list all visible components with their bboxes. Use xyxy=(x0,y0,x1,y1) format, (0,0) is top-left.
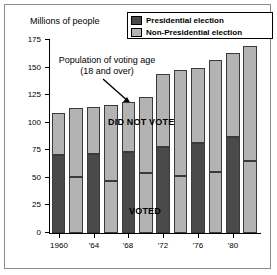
x-tick-1976 xyxy=(198,234,199,238)
x-tick-1968 xyxy=(128,234,129,238)
bar-segment-did-not-vote-1978 xyxy=(209,60,223,172)
bar-segment-did-not-vote-1970 xyxy=(139,97,153,173)
chart-frame: Millions of people Presidential election… xyxy=(4,4,271,269)
bar-segment-did-not-vote-1962 xyxy=(69,108,83,176)
bar-segment-voted-1978 xyxy=(209,172,223,233)
bar-segment-did-not-vote-1972 xyxy=(156,74,170,147)
bar-segment-voted-1962 xyxy=(69,177,83,233)
bar-segment-voted-1964 xyxy=(87,154,101,233)
legend-swatch-presidential xyxy=(131,16,142,25)
legend-item-non-presidential: Non-Presidential election xyxy=(131,27,269,38)
y-tick-label-0: 0 xyxy=(13,228,41,237)
bar-segment-voted-1970 xyxy=(139,173,153,233)
x-axis-line xyxy=(49,233,261,234)
y-tick-label-50: 50 xyxy=(13,173,41,182)
chart-legend: Presidential election Non-Presidential e… xyxy=(127,12,273,39)
bar-segment-did-not-vote-1976 xyxy=(191,68,205,143)
bar-segment-did-not-vote-1964 xyxy=(87,107,101,153)
bar-1976 xyxy=(191,68,205,233)
y-tick-label-175: 175 xyxy=(13,35,41,44)
bar-segment-did-not-vote-1982 xyxy=(243,46,257,162)
did-not-vote-label: DID NOT VOTE xyxy=(108,117,174,127)
y-axis-title: Millions of people xyxy=(30,16,100,26)
bar-segment-voted-1960 xyxy=(52,155,66,233)
x-tick-label-1964: '64 xyxy=(89,241,99,250)
bar-segment-did-not-vote-1974 xyxy=(174,70,188,176)
bar-1982 xyxy=(243,46,257,233)
legend-swatch-non-presidential xyxy=(131,28,142,37)
x-tick-1980 xyxy=(233,234,234,238)
x-tick-label-1976: '76 xyxy=(193,241,203,250)
bar-1980 xyxy=(226,53,240,233)
y-tick-label-125: 125 xyxy=(13,90,41,99)
bar-segment-voted-1968 xyxy=(122,152,136,233)
plot-area xyxy=(50,40,259,233)
bar-segment-did-not-vote-1980 xyxy=(226,53,240,137)
y-tick-label-25: 25 xyxy=(13,200,41,209)
voted-label: VOTED xyxy=(129,206,161,216)
bar-segment-did-not-vote-1968 xyxy=(122,102,136,153)
bar-segment-voted-1974 xyxy=(174,176,188,233)
bar-segment-voted-1982 xyxy=(243,161,257,233)
bar-segment-voted-1980 xyxy=(226,137,240,233)
bar-1978 xyxy=(209,60,223,233)
y-tick-label-75: 75 xyxy=(13,145,41,154)
bar-segment-did-not-vote-1960 xyxy=(52,113,66,155)
x-tick-1964 xyxy=(94,234,95,238)
x-tick-label-1972: '72 xyxy=(158,241,168,250)
bar-1960 xyxy=(52,113,66,233)
bar-1974 xyxy=(174,70,188,233)
bar-1962 xyxy=(69,108,83,233)
bar-1964 xyxy=(87,107,101,233)
bar-segment-voted-1972 xyxy=(156,147,170,233)
x-tick-1972 xyxy=(163,234,164,238)
x-tick-1960 xyxy=(59,234,60,238)
y-tick-label-150: 150 xyxy=(13,63,41,72)
x-tick-label-1980: '80 xyxy=(228,241,238,250)
legend-label-non-presidential: Non-Presidential election xyxy=(146,28,242,37)
y-tick-label-100: 100 xyxy=(13,118,41,127)
x-tick-label-1968: '68 xyxy=(123,241,133,250)
x-tick-label-1960: 1960 xyxy=(50,241,68,250)
bar-segment-voted-1976 xyxy=(191,143,205,233)
legend-item-presidential: Presidential election xyxy=(131,15,269,26)
bar-segment-voted-1966 xyxy=(104,181,118,233)
legend-label-presidential: Presidential election xyxy=(146,16,224,25)
